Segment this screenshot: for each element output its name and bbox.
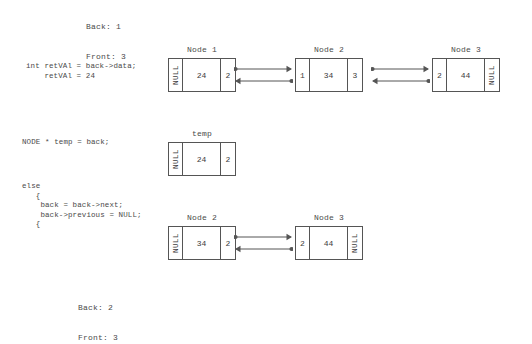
node-cell-data: 34 <box>310 59 348 91</box>
node-link-arrows <box>371 58 430 92</box>
node: Node 3244NULL <box>295 226 363 260</box>
node-label: temp <box>168 129 236 139</box>
node-cell-data: 44 <box>447 59 485 91</box>
null-label: NULL <box>172 233 180 253</box>
node-cell-pointer: 2 <box>221 227 235 259</box>
node-cell-data: 44 <box>310 227 348 259</box>
node-label: Node 2 <box>295 45 363 55</box>
null-label: NULL <box>172 65 180 85</box>
node-cell-pointer: 2 <box>221 59 235 91</box>
node-cell-data: 34 <box>183 227 221 259</box>
node-label: Node 3 <box>432 45 500 55</box>
node-cell-pointer: 1 <box>296 59 310 91</box>
node: Node 1NULL242 <box>168 58 236 92</box>
node-cell-pointer: 2 <box>221 143 235 175</box>
node-cell-null: NULL <box>485 59 499 91</box>
node: Node 2NULL342 <box>168 226 236 260</box>
node-label: Node 2 <box>168 213 236 223</box>
node-box: 1343 <box>295 58 363 92</box>
status-bottom: Back: 2 Front: 3 <box>78 283 118 344</box>
node-cell-pointer: 2 <box>433 59 447 91</box>
null-label: NULL <box>172 149 180 169</box>
node-cell-null: NULL <box>169 143 183 175</box>
node-cell-null: NULL <box>169 227 183 259</box>
status-bottom-back: Back: 2 <box>78 303 118 313</box>
node-cell-null: NULL <box>169 59 183 91</box>
node-box: 244NULL <box>432 58 500 92</box>
node-box: NULL342 <box>168 226 236 260</box>
node-chain-row-3: Node 2NULL342Node 3244NULL <box>0 212 532 260</box>
node-cell-pointer: 3 <box>348 59 362 91</box>
status-top-back: Back: 1 <box>86 22 126 32</box>
node-cell-data: 24 <box>183 143 221 175</box>
node: Node 3244NULL <box>432 58 500 92</box>
node-link-arrows <box>234 58 293 92</box>
node: Node 21343 <box>295 58 363 92</box>
node-box: NULL242 <box>168 142 236 176</box>
node-cell-data: 24 <box>183 59 221 91</box>
node-cell-null: NULL <box>348 227 362 259</box>
node-link-arrows <box>234 226 293 260</box>
node-cell-pointer: 2 <box>296 227 310 259</box>
node-box: NULL242 <box>168 58 236 92</box>
node-label: Node 3 <box>295 213 363 223</box>
node-chain-row-2: tempNULL242 <box>0 128 532 176</box>
node-label: Node 1 <box>168 45 236 55</box>
null-label: NULL <box>488 65 496 85</box>
null-label: NULL <box>351 233 359 253</box>
status-bottom-front: Front: 3 <box>78 333 118 343</box>
node-chain-row-1: Node 1NULL242Node 21343Node 3244NULL <box>0 44 532 92</box>
node: tempNULL242 <box>168 142 236 176</box>
node-box: 244NULL <box>295 226 363 260</box>
